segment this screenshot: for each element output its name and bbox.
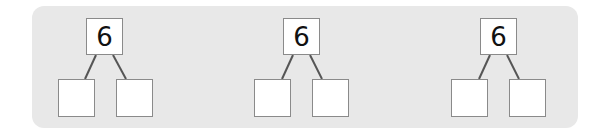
whole-box-2: 6 [283,18,320,55]
whole-box-1: 6 [86,18,123,55]
whole-box-3: 6 [480,18,517,55]
part-box-2a[interactable] [254,79,291,117]
part-box-1b[interactable] [116,79,153,117]
part-box-3a[interactable] [451,79,488,117]
part-box-3b[interactable] [509,79,546,117]
part-box-1a[interactable] [58,79,95,117]
part-box-2b[interactable] [312,79,349,117]
